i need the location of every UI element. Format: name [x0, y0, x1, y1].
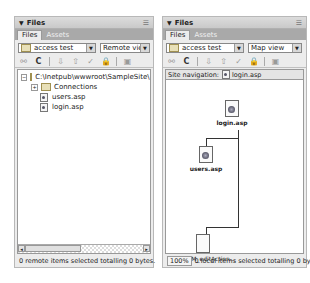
view-select[interactable]: Map view ▼: [248, 43, 302, 53]
folder-icon: [169, 44, 179, 52]
panel-tabs: Files Assets: [15, 29, 153, 40]
expand-icon[interactable]: ▣: [271, 57, 280, 66]
chevron-down-icon: ▼: [86, 44, 95, 52]
toolbar-divider: [264, 57, 265, 66]
panel-options-icon[interactable]: ☰: [296, 19, 302, 27]
collapse-triangle-icon[interactable]: ▼: [19, 19, 24, 26]
status-bar: 100% 0 local items selected totalling 0 …: [163, 254, 306, 267]
chevron-down-icon: ▼: [292, 44, 301, 52]
toolbar-divider: [197, 57, 198, 66]
scroll-left-icon[interactable]: ◂: [18, 245, 25, 252]
put-icon[interactable]: ⇧: [71, 57, 80, 66]
checkin-icon[interactable]: 🔒: [249, 57, 258, 66]
tab-assets[interactable]: Assets: [42, 31, 73, 40]
toolbar-divider: [49, 57, 50, 66]
scrollbar-thumb[interactable]: [25, 245, 81, 252]
asp-file-icon: [40, 93, 48, 102]
tree-item-connections[interactable]: + Connections: [21, 82, 147, 92]
asp-file-icon: [40, 103, 48, 112]
collapse-icon[interactable]: −: [21, 74, 27, 81]
panel-options-icon[interactable]: ☰: [143, 19, 149, 27]
asp-file-icon: [225, 100, 239, 117]
get-icon[interactable]: ⇩: [56, 57, 65, 66]
expand-icon[interactable]: ▣: [123, 57, 132, 66]
asp-file-icon: [222, 70, 230, 79]
map-node-login[interactable]: login.asp: [212, 100, 252, 126]
folder-icon: [30, 73, 32, 81]
site-map[interactable]: login.asp users.asp <%=MM_editAction...: [165, 79, 304, 254]
checkout-icon[interactable]: ✓: [234, 57, 243, 66]
tab-files[interactable]: Files: [165, 30, 190, 40]
asp-file-icon: [199, 146, 213, 163]
files-toolbar: ⚯ C ⇩ ⇧ ✓ 🔒 ▣: [15, 55, 153, 68]
file-tree[interactable]: − C:\Inetpub\wwwroot\SampleSite\ + Conne…: [17, 69, 151, 254]
files-panel-map: ▼ Files ☰ Files Assets access test ▼ Map…: [162, 16, 307, 268]
panel-titlebar[interactable]: ▼ Files ☰: [163, 17, 306, 29]
status-bar: 0 remote items selected totalling 0 byte…: [15, 254, 153, 267]
site-navigation-file[interactable]: login.asp: [232, 71, 261, 79]
site-select[interactable]: access test ▼: [166, 43, 244, 53]
files-toolbar: ⚯ C ⇩ ⇧ ✓ 🔒 ▣: [163, 55, 306, 68]
panel-titlebar[interactable]: ▼ Files ☰: [15, 17, 153, 29]
files-panel-remote: ▼ Files ☰ Files Assets access test ▼ Rem…: [14, 16, 154, 268]
checkout-icon[interactable]: ✓: [86, 57, 95, 66]
tree-item-users-asp[interactable]: users.asp: [21, 92, 147, 102]
tree-item-root[interactable]: − C:\Inetpub\wwwroot\SampleSite\: [21, 72, 147, 82]
tab-assets[interactable]: Assets: [190, 31, 221, 40]
checkin-icon[interactable]: 🔒: [101, 57, 110, 66]
horizontal-scrollbar[interactable]: ◂ ▸: [18, 244, 150, 253]
panel-title: Files: [27, 19, 46, 27]
view-select[interactable]: Remote view ▼: [100, 43, 150, 53]
refresh-icon[interactable]: C: [182, 57, 191, 66]
expand-icon[interactable]: +: [31, 84, 38, 91]
connect-icon[interactable]: ⚯: [19, 57, 28, 66]
site-select[interactable]: access test ▼: [18, 43, 96, 53]
panel-title: Files: [175, 19, 194, 27]
connector-line: [206, 227, 239, 228]
collapse-triangle-icon[interactable]: ▼: [167, 19, 172, 26]
map-node-users[interactable]: users.asp: [186, 146, 226, 172]
toolbar-divider: [116, 57, 117, 66]
chevron-down-icon: ▼: [234, 44, 243, 52]
zoom-level[interactable]: 100%: [167, 256, 192, 266]
connector-line: [206, 138, 239, 139]
panel-tabs: Files Assets: [163, 29, 306, 40]
folder-icon: [21, 44, 31, 52]
tree-item-login-asp[interactable]: login.asp: [21, 102, 147, 112]
get-icon[interactable]: ⇩: [204, 57, 213, 66]
folder-icon: [41, 83, 51, 91]
refresh-icon[interactable]: C: [34, 57, 43, 66]
put-icon[interactable]: ⇧: [219, 57, 228, 66]
tab-files[interactable]: Files: [17, 30, 42, 40]
chevron-down-icon: ▼: [140, 44, 149, 52]
connect-icon[interactable]: ⚯: [167, 57, 176, 66]
scroll-right-icon[interactable]: ▸: [143, 245, 150, 252]
document-icon: [196, 234, 210, 253]
connector-line: [238, 130, 239, 227]
